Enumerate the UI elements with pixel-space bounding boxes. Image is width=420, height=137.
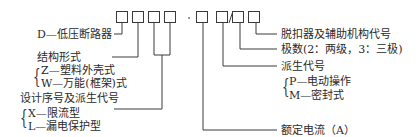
label-structure-z: Z—塑料外壳式 [41,64,115,77]
label-derived-title: 派生代号 [281,60,325,73]
code-box-3 [149,12,160,23]
label-poles: 极数(2：两级，3：三极) [281,43,403,56]
label-structure-w: W—万能(框架)式 [41,77,127,90]
label-structure-title: 结构形式 [37,51,81,64]
code-box-1 [117,12,128,23]
label-design-l: L—漏电保护型 [28,120,101,133]
label-design-x: X—限流型 [28,107,80,120]
brace-design: { [20,107,28,127]
label-rated-current: 额定电流（A） [281,124,355,137]
code-box-5 [197,12,208,23]
code-box-2 [133,12,144,23]
label-d-low-voltage-breaker: D—低压断路器 [37,28,112,41]
code-box-6 [217,12,228,23]
label-design-title: 设计序号及派生代号 [20,92,119,105]
code-box-4 [165,12,176,23]
brace-structure: { [33,66,41,86]
label-derived-m: M—密封式 [289,89,344,102]
label-derived-p: P—电动操作 [289,75,351,88]
code-box-8 [249,12,260,23]
code-box-7 [233,12,244,23]
label-release-code: 脱扣器及辅助机构代号 [281,28,391,41]
circuit-breaker-model-diagram: D—低压断路器 结构形式 { Z—塑料外壳式 W—万能(框架)式 设计序号及派生… [0,0,420,137]
